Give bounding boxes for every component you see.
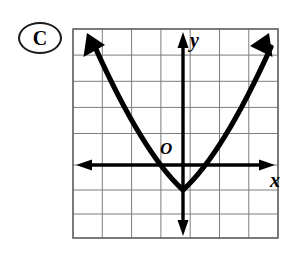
x-axis-label: x: [270, 170, 280, 190]
origin-label: O: [160, 140, 172, 157]
y-axis-label: y: [190, 30, 199, 50]
graph-figure: [0, 0, 298, 253]
figure-screenshot: C: [0, 0, 298, 253]
